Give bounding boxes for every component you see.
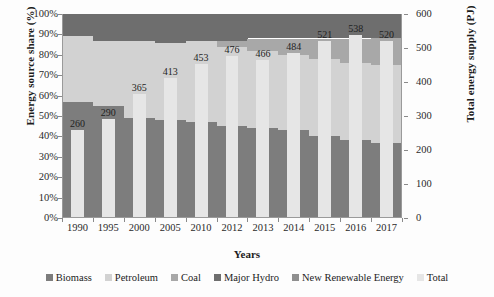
x-axis-tickmark: [309, 218, 310, 222]
x-axis-ticks: 1990199520002005201020122013201420152016…: [62, 222, 402, 238]
chart-figure: Energy source share (%) Total energy sup…: [0, 0, 494, 297]
x-axis-tick-label: 2000: [124, 222, 155, 233]
x-axis-tick-label: 2005: [155, 222, 186, 233]
y-axis-right-tick-label: 100: [416, 179, 432, 190]
total-bar-value-label: 365: [123, 83, 155, 93]
legend-item[interactable]: Major Hydro: [214, 272, 279, 283]
x-axis-tickmark: [340, 218, 341, 222]
legend-swatch-icon: [46, 274, 53, 281]
y-axis-left-tick-label: 20%: [39, 172, 58, 183]
y-axis-left-tick-label: 50%: [39, 111, 58, 122]
x-axis-tickmark: [124, 218, 125, 222]
total-bar: [71, 130, 84, 218]
y-axis-right-tickmark: [404, 14, 408, 15]
legend-item[interactable]: Biomass: [46, 272, 92, 283]
area-segment: [93, 14, 125, 41]
y-axis-right-tickmark: [404, 150, 408, 151]
legend-item-label: Total: [427, 272, 448, 283]
y-axis-right-tickmark: [404, 48, 408, 49]
y-axis-left-tick-label: 90%: [39, 29, 58, 40]
x-axis-tickmark: [371, 218, 372, 222]
x-axis-tick-label: 2016: [340, 222, 371, 233]
legend-item[interactable]: New Renewable Energy: [292, 272, 404, 283]
y-axis-right-ticks: 0100200300400500600: [404, 0, 450, 297]
plot-area: 260290365413453476466484521538520: [62, 14, 402, 218]
x-axis-tick-label: 2015: [309, 222, 340, 233]
legend-swatch-icon: [417, 274, 424, 281]
total-bar: [318, 41, 331, 218]
total-bar-value-label: 466: [247, 49, 279, 59]
total-bar-value-label: 520: [371, 30, 402, 40]
legend-swatch-icon: [214, 274, 221, 281]
total-bar: [287, 53, 300, 218]
total-bar: [133, 94, 146, 218]
y-axis-right-tick-label: 600: [416, 9, 432, 20]
y-axis-right-tick-label: 400: [416, 77, 432, 88]
total-bar: [164, 78, 177, 218]
y-axis-right-tick-label: 0: [416, 213, 421, 224]
chart-legend: BiomassPetroleumCoalMajor HydroNew Renew…: [0, 272, 494, 283]
x-axis-tickmark: [217, 218, 218, 222]
total-bar-value-label: 290: [92, 108, 124, 118]
legend-swatch-icon: [292, 274, 299, 281]
legend-swatch-icon: [105, 274, 112, 281]
total-bar-value-label: 521: [309, 30, 341, 40]
total-bar: [102, 119, 115, 218]
y-axis-left-tick-label: 100%: [34, 9, 59, 20]
legend-item-label: Major Hydro: [224, 272, 279, 283]
x-axis-tickmark: [402, 218, 403, 222]
total-bar: [349, 35, 362, 218]
y-axis-right-tick-label: 300: [416, 111, 432, 122]
legend-item[interactable]: Total: [417, 272, 448, 283]
x-axis-tick-label: 2017: [371, 222, 402, 233]
legend-item-label: New Renewable Energy: [302, 272, 404, 283]
x-axis-tickmark: [247, 218, 248, 222]
total-bar-value-label: 484: [278, 42, 310, 52]
y-axis-left-tick-label: 30%: [39, 152, 58, 163]
y-axis-left-ticks: 0%10%20%30%40%50%60%70%80%90%100%: [12, 0, 58, 297]
y-axis-left-tick-label: 0%: [44, 213, 58, 224]
x-axis-tick-label: 2014: [278, 222, 309, 233]
x-axis-tick-label: 2013: [247, 222, 278, 233]
total-bar-value-label: 476: [216, 45, 248, 55]
area-segment: [217, 14, 249, 41]
legend-item[interactable]: Coal: [171, 272, 201, 283]
x-axis-tickmark: [62, 218, 63, 222]
legend-swatch-icon: [171, 274, 178, 281]
x-axis-tick-label: 1990: [62, 222, 93, 233]
area-segment: [186, 14, 218, 41]
area-segment: [124, 14, 156, 41]
y-axis-left-tick-label: 40%: [39, 131, 58, 142]
total-bar-value-label: 413: [154, 67, 186, 77]
y-axis-left-tick-label: 10%: [39, 193, 58, 204]
total-bar: [226, 56, 239, 218]
area-segment: [155, 14, 187, 43]
x-axis-tickmark: [278, 218, 279, 222]
area-segment: [62, 14, 94, 36]
y-axis-right-tickmark: [404, 184, 408, 185]
y-axis-right-tick-label: 200: [416, 145, 432, 156]
y-axis-right-tickmark: [404, 116, 408, 117]
x-axis-tickmark: [155, 218, 156, 222]
y-axis-left-tick-label: 80%: [39, 50, 58, 61]
y-axis-right-tickmark: [404, 82, 408, 83]
x-axis-tick-label: 2010: [186, 222, 217, 233]
y-axis-right-tick-label: 500: [416, 43, 432, 54]
area-segment: [62, 36, 94, 101]
legend-item-label: Biomass: [56, 272, 92, 283]
total-bar-value-label: 538: [340, 24, 372, 34]
x-axis-tickmark: [186, 218, 187, 222]
area-segment: [278, 14, 310, 38]
total-bar-value-label: 260: [62, 119, 93, 129]
total-bar: [256, 60, 269, 218]
x-axis-tick-label: 1995: [93, 222, 124, 233]
x-axis-tick-label: 2012: [217, 222, 248, 233]
x-axis-tickmark: [93, 218, 94, 222]
total-bar: [195, 64, 208, 218]
total-bar: [380, 41, 393, 218]
legend-item[interactable]: Petroleum: [105, 272, 158, 283]
y-axis-right-tickmark: [404, 218, 408, 219]
legend-item-label: Petroleum: [115, 272, 158, 283]
y-axis-left-tick-label: 60%: [39, 91, 58, 102]
area-segment: [247, 14, 279, 38]
